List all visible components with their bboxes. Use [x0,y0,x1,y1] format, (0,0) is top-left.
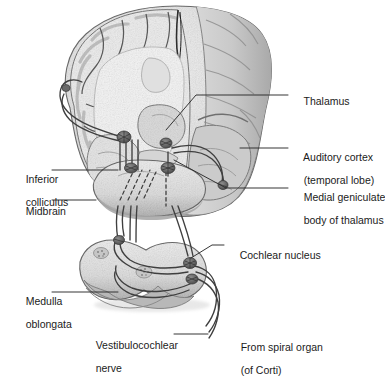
label-medial-geniculate-line1: Medial geniculate [304,191,385,203]
cochlear-nucleus-node [184,258,197,269]
label-thalamus: Thalamus [292,84,350,119]
left-cortex-termination-node [62,85,70,92]
inferior-colliculus-node [117,131,131,143]
label-vestibulocochlear-nerve-line1: Vestibulocochlear [96,339,178,351]
label-midbrain-line1: Midbrain [26,205,66,217]
label-cochlear-nucleus-line1: Cochlear nucleus [240,249,321,261]
label-from-spiral-organ-line1: From spiral organ [241,341,323,353]
midbrain-fiber-entry-node [125,163,138,173]
label-cochlear-nucleus: Cochlear nucleus [228,238,321,273]
label-midbrain: Midbrain [14,194,66,229]
label-auditory-cortex-line1: Auditory cortex [303,151,373,163]
medulla-fiber-node [114,236,125,245]
label-medulla-oblongata-line1: Medulla [26,295,63,307]
label-vestibulocochlear-nerve: Vestibulocochlear nerve [84,328,178,380]
cochlear-nucleus-ventral-node [186,274,198,284]
label-vestibulocochlear-nerve-line2: nerve [96,362,122,374]
label-medulla-oblongata: Medulla oblongata [14,284,72,342]
label-inferior-colliculus-line1: Inferior [26,173,59,185]
label-medial-geniculate: Medial geniculate body of thalamus [292,180,385,238]
label-from-spiral-organ-line2: (of Corti) [241,364,282,376]
medial-geniculate-node [161,163,175,174]
label-from-spiral-organ: From spiral organ (of Corti) [229,330,323,380]
label-thalamus-line1: Thalamus [303,95,349,107]
thalamus-relay-node [160,138,172,148]
label-medulla-oblongata-line2: oblongata [26,318,72,330]
label-medial-geniculate-line2: body of thalamus [304,214,384,226]
